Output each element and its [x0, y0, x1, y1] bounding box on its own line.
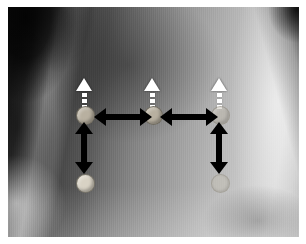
figure-root: [0, 0, 306, 244]
dash-segment-right-2: [217, 99, 222, 103]
triangle-icon-right: [211, 78, 227, 91]
arrow-shaft: [169, 114, 209, 120]
arrowhead-right: [140, 108, 152, 126]
dash-segment-left-2: [82, 99, 87, 103]
dash-segment-center-2: [150, 99, 155, 103]
dash-segment-right-1: [217, 93, 222, 97]
arrowhead-bottom: [75, 162, 93, 174]
arrow-shaft: [216, 131, 222, 165]
disc-lower-left: [76, 174, 95, 193]
annotation-overlay: [0, 0, 306, 244]
disc-lower-right: [211, 174, 230, 193]
arrow-shaft: [81, 131, 87, 165]
arrowhead-bottom: [210, 162, 228, 174]
arrow-vertical-right: [210, 122, 228, 174]
arrow-shaft: [103, 114, 143, 120]
triangle-icon-left: [76, 78, 92, 91]
triangle-icon-center: [144, 78, 160, 91]
dash-segment-center-1: [150, 93, 155, 97]
arrow-vertical-left: [75, 122, 93, 174]
dash-segment-left-1: [82, 93, 87, 97]
arrow-horizontal-left: [94, 108, 152, 126]
